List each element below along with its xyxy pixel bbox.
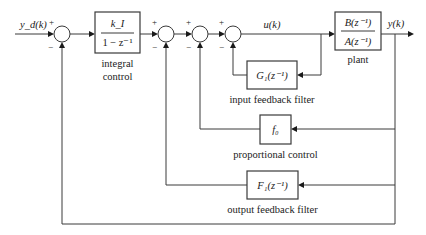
integral-label-line2: control [103,71,133,82]
integral-numerator: k_I [111,18,125,29]
arrowhead [297,72,303,78]
output-signal-label: y(k) [387,18,405,30]
integral-label-line1: integral [101,58,133,69]
plus-sign: + [49,17,54,27]
output-filter-transfer-function: F₁(z⁻¹) [256,180,288,192]
input-filter-transfer-function: G₁(z⁻¹) [256,70,288,82]
arrowhead [186,31,192,37]
integral-denominator: 1 − z⁻¹ [102,37,132,48]
input-filter-label: input feedback filter [229,94,315,105]
plant-block: B(z⁻¹) A(z⁻¹) plant [335,12,381,65]
plant-label: plant [348,54,369,65]
g1-to-sum4-line [233,45,247,75]
arrowhead [230,42,236,48]
arrowhead [291,126,297,132]
arrowhead [48,31,54,37]
plus-sign: + [219,17,224,27]
integral-control-block: k_I 1 − z⁻¹ integral control [95,12,140,82]
plus-sign: + [186,17,191,27]
minus-sign: − [48,42,53,52]
plus-sign: + [152,17,157,27]
arrowhead [408,31,414,37]
proportional-control-block: f₀ proportional control [233,115,317,160]
arrowhead [152,31,158,37]
arrowhead [163,42,169,48]
input-feedback-filter-block: G₁(z⁻¹) input feedback filter [229,61,315,105]
plant-numerator: B(z⁻¹) [345,17,372,29]
output-feedback-filter-block: F₁(z⁻¹) output feedback filter [227,171,318,215]
input-feedback-tap-line [300,34,321,75]
arrowhead [197,42,203,48]
proportional-gain: f₀ [272,124,279,135]
arrowhead [329,31,335,37]
arrowhead [59,42,65,48]
arrowhead [298,182,304,188]
minus-sign: − [186,42,191,52]
arrowhead [89,31,95,37]
plant-denominator: A(z⁻¹) [344,36,372,48]
minus-sign: − [219,42,224,52]
reference-signal-label: y_d(k) [19,19,47,31]
proportional-label: proportional control [233,149,317,160]
arrowhead [219,31,225,37]
f1-to-sum2-line [166,45,247,185]
minus-sign: − [152,42,157,52]
control-block-diagram: + − + − + − + − k_I 1 − z⁻¹ integral con… [0,0,426,235]
control-signal-label: u(k) [264,19,281,31]
output-filter-label: output feedback filter [227,204,318,215]
